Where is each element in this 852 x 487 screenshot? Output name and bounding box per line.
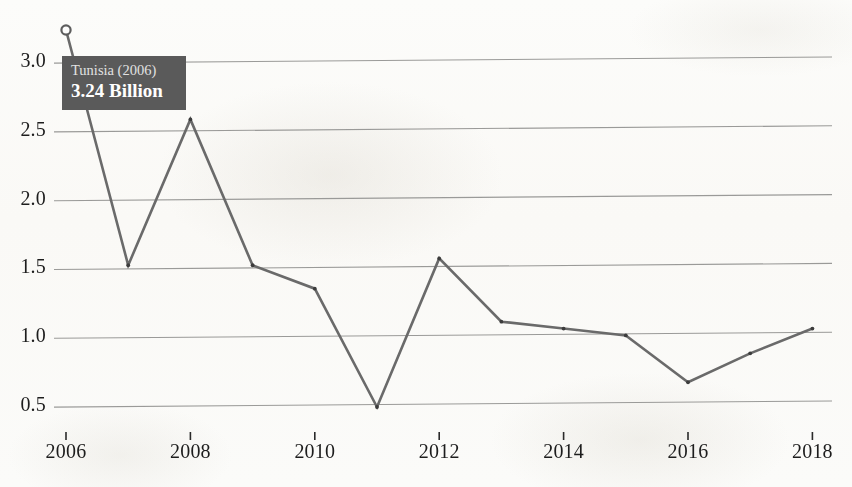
data-point-2009[interactable] xyxy=(251,263,255,267)
x-axis-label-2008: 2008 xyxy=(155,440,225,463)
y-axis-label-2.5: 2.5 xyxy=(0,118,46,141)
gridline-1.5 xyxy=(54,263,832,269)
x-axis-label-2010: 2010 xyxy=(280,440,350,463)
data-point-2007[interactable] xyxy=(126,263,130,267)
data-tooltip: Tunisia (2006) 3.24 Billion xyxy=(62,56,186,110)
y-axis-label-2.0: 2.0 xyxy=(0,187,46,210)
data-point-2014[interactable] xyxy=(562,327,566,331)
data-point-2012[interactable] xyxy=(437,256,441,260)
data-point-2017[interactable] xyxy=(748,351,752,355)
gridline-2.5 xyxy=(54,126,832,132)
y-axis-label-1.5: 1.5 xyxy=(0,255,46,278)
y-axis-label-1.0: 1.0 xyxy=(0,324,46,347)
data-point-2018[interactable] xyxy=(811,327,815,331)
x-axis-label-2016: 2016 xyxy=(653,440,723,463)
data-point-markers[interactable] xyxy=(126,118,814,409)
data-point-2008[interactable] xyxy=(189,118,193,122)
data-point-2015[interactable] xyxy=(624,334,628,338)
x-axis-label-2018: 2018 xyxy=(777,440,847,463)
data-point-2011[interactable] xyxy=(375,405,379,409)
tooltip-title: Tunisia (2006) xyxy=(71,61,186,79)
data-point-2013[interactable] xyxy=(500,320,504,324)
y-axis-label-3.0: 3.0 xyxy=(0,49,46,72)
data-point-2016[interactable] xyxy=(686,380,690,384)
y-axis-label-0.5: 0.5 xyxy=(0,393,46,416)
highlighted-point-marker[interactable] xyxy=(61,25,70,34)
x-axis-label-2014: 2014 xyxy=(529,440,599,463)
gridline-2.0 xyxy=(54,195,832,201)
x-axis-label-2012: 2012 xyxy=(404,440,474,463)
x-axis-label-2006: 2006 xyxy=(31,440,101,463)
gridline-0.5 xyxy=(54,401,832,407)
gridline-1.0 xyxy=(54,332,832,338)
x-axis-tick-marks xyxy=(66,432,812,440)
tooltip-value: 3.24 Billion xyxy=(71,79,186,104)
chart-page: 0.51.01.52.02.53.0 200620082010201220142… xyxy=(0,0,852,487)
data-point-2010[interactable] xyxy=(313,287,317,291)
